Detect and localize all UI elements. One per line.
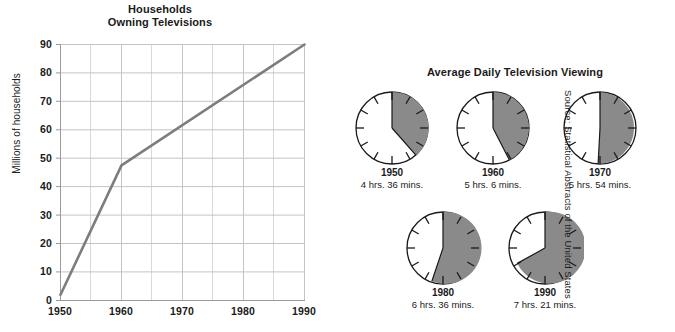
clock-dial-1960: 1960 5 hrs. 6 mins.	[454, 89, 532, 167]
y-tick-label: 40	[26, 180, 52, 192]
source-note: Source: Statistical Abstracts of the Uni…	[563, 90, 574, 330]
clocks-panel: Average Daily Television Viewing	[330, 0, 645, 332]
x-tick-label: 1990	[284, 305, 324, 317]
clock-year-label: 1950	[337, 167, 447, 179]
clock-value-label: 7 hrs. 21 mins.	[490, 299, 600, 311]
clock-caption-1980: 1980 6 hrs. 36 mins.	[388, 287, 498, 311]
x-tick-label: 1980	[223, 305, 263, 317]
y-tick-label: 20	[26, 237, 52, 249]
x-tick-label: 1950	[40, 305, 80, 317]
y-tick-label: 50	[26, 152, 52, 164]
y-tick-label: 80	[26, 66, 52, 78]
y-tick-label: 30	[26, 209, 52, 221]
y-tick-marks	[56, 45, 60, 301]
clock-year-label: 1970	[545, 167, 655, 179]
clock-caption-1990: 1990 7 hrs. 21 mins.	[490, 287, 600, 311]
clock-face-1980	[404, 209, 482, 287]
clock-caption-1960: 1960 5 hrs. 6 mins.	[438, 167, 548, 191]
clock-face-1950	[353, 89, 431, 167]
clock-year-label: 1990	[490, 287, 600, 299]
y-tick-label: 10	[26, 265, 52, 277]
clock-value-label: 5 hrs. 6 mins.	[438, 179, 548, 191]
clock-caption-1950: 1950 4 hrs. 36 mins.	[337, 167, 447, 191]
line-chart-panel: Households Owning Televisions Millions o…	[0, 0, 330, 332]
clock-year-label: 1960	[438, 167, 548, 179]
y-tick-label: 60	[26, 123, 52, 135]
y-tick-label: 90	[26, 38, 52, 50]
x-tick-label: 1960	[101, 305, 141, 317]
clock-dial-1980: 1980 6 hrs. 36 mins.	[404, 209, 482, 287]
y-tick-label: 70	[26, 95, 52, 107]
clock-caption-1970: 1970 5 hrs. 54 mins.	[545, 167, 655, 191]
clocks-section-title: Average Daily Television Viewing	[370, 66, 660, 78]
television-statistics-figure: Households Owning Televisions Millions o…	[0, 0, 675, 332]
clock-value-label: 4 hrs. 36 mins.	[337, 179, 447, 191]
clock-dial-1950: 1950 4 hrs. 36 mins.	[353, 89, 431, 167]
clock-value-label: 6 hrs. 36 mins.	[388, 299, 498, 311]
x-tick-label: 1970	[162, 305, 202, 317]
clock-value-label: 5 hrs. 54 mins.	[545, 179, 655, 191]
clock-year-label: 1980	[388, 287, 498, 299]
clock-face-1960	[454, 89, 532, 167]
